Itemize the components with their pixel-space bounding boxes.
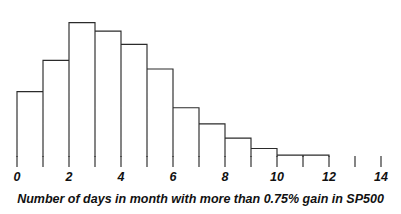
- x-axis-tick-label: 4: [118, 171, 125, 184]
- x-axis-tick-label: 10: [270, 171, 284, 184]
- x-axis-tick-label: 2: [66, 171, 73, 184]
- histogram-outline: [17, 23, 329, 157]
- histogram-chart: 02468101214 Number of days in month with…: [0, 0, 401, 214]
- x-axis-caption: Number of days in month with more than 0…: [0, 193, 401, 206]
- x-axis-tick-label: 8: [222, 171, 229, 184]
- x-axis-tick-label: 0: [14, 171, 21, 184]
- x-axis-tick-label: 14: [374, 171, 388, 184]
- histogram-outline-group: [17, 23, 329, 157]
- x-axis-tick-label: 6: [170, 171, 177, 184]
- x-axis-tick-label: 12: [322, 171, 336, 184]
- x-axis-tick-marks: [17, 156, 381, 167]
- plot-area: [0, 0, 401, 214]
